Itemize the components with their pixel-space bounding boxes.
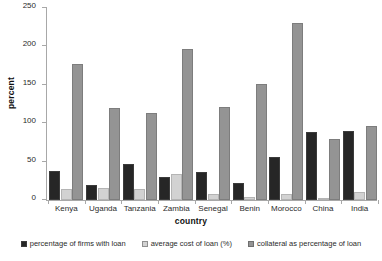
- legend-item[interactable]: collateral as percentage of loan: [248, 240, 361, 248]
- y-axis-line: [46, 8, 47, 201]
- bar: [269, 157, 280, 200]
- bar: [98, 188, 109, 200]
- bar-group: [269, 8, 303, 200]
- bar: [86, 185, 97, 200]
- bar: [134, 189, 145, 200]
- y-axis-tick: 0: [42, 199, 47, 200]
- bar: [306, 132, 317, 200]
- bar: [182, 49, 193, 200]
- y-axis-tick-label: 0: [32, 193, 36, 202]
- bar: [329, 139, 340, 200]
- legend-label: percentage of firms with loan: [30, 240, 126, 248]
- bar-group: [86, 8, 120, 200]
- legend-label: collateral as percentage of loan: [257, 240, 361, 248]
- y-axis-tick: 150: [42, 84, 47, 85]
- bar-chart: percent 050100150200250 KenyaUgandaTanza…: [0, 0, 382, 261]
- bar: [281, 194, 292, 200]
- y-axis-tick: 50: [42, 161, 47, 162]
- bar-group: [306, 8, 340, 200]
- bar: [123, 164, 134, 200]
- bar: [171, 174, 182, 200]
- y-axis-tick: 250: [42, 7, 47, 8]
- legend-item[interactable]: percentage of firms with loan: [21, 240, 126, 248]
- legend-label: average cost of loan (%): [151, 240, 232, 248]
- bar: [219, 107, 230, 200]
- chart-legend: percentage of firms with loanaverage cos…: [0, 240, 382, 248]
- bar: [244, 197, 255, 200]
- bar: [318, 198, 329, 200]
- plot-area: 050100150200250 KenyaUgandaTanzaniaZambi…: [46, 8, 376, 200]
- bar-group: [123, 8, 157, 200]
- y-axis-tick-label: 250: [23, 1, 36, 10]
- bar: [196, 172, 207, 200]
- y-axis-tick: 200: [42, 45, 47, 46]
- bar: [109, 108, 120, 200]
- bar-group: [233, 8, 267, 200]
- bar-group: [343, 8, 377, 200]
- y-axis-tick-label: 50: [27, 155, 36, 164]
- legend-item[interactable]: average cost of loan (%): [142, 240, 232, 248]
- bar-group: [159, 8, 193, 200]
- y-axis-title: percent: [6, 63, 16, 123]
- bar-group: [196, 8, 230, 200]
- bar: [61, 189, 72, 200]
- bar: [72, 64, 83, 200]
- legend-swatch-icon: [248, 241, 254, 247]
- bar: [354, 192, 365, 200]
- bar-group: [49, 8, 83, 200]
- x-axis-title: country: [0, 216, 382, 226]
- bar: [292, 23, 303, 200]
- x-axis-category-label: India: [325, 204, 382, 213]
- x-axis-line: [46, 200, 377, 201]
- y-axis-tick-label: 200: [23, 39, 36, 48]
- bar: [256, 84, 267, 200]
- bar: [159, 177, 170, 200]
- y-axis-tick: 100: [42, 122, 47, 123]
- bar: [49, 171, 60, 200]
- y-axis-tick-label: 100: [23, 116, 36, 125]
- bar: [233, 183, 244, 200]
- bar: [343, 131, 354, 200]
- legend-swatch-icon: [21, 241, 27, 247]
- bar: [208, 194, 219, 200]
- bar: [146, 113, 157, 200]
- legend-swatch-icon: [142, 241, 148, 247]
- y-axis-tick-label: 150: [23, 78, 36, 87]
- bar: [366, 126, 377, 200]
